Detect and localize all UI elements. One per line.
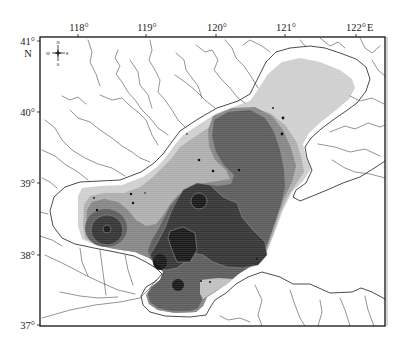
contour-label-marker bbox=[256, 258, 258, 260]
contour-label-marker bbox=[130, 193, 132, 195]
contour-label-marker bbox=[132, 202, 134, 204]
contour-label-marker bbox=[209, 281, 211, 283]
compass-north-label: N bbox=[56, 40, 59, 45]
contour-label-marker bbox=[212, 170, 215, 173]
longitude-labels: 118° 119° 120° 121° 122° E bbox=[69, 22, 373, 33]
contour-label-marker bbox=[186, 133, 188, 135]
latitude-labels: 41° N 40° 39° 38° 37° bbox=[20, 36, 35, 331]
latitude-label: 41° bbox=[20, 36, 35, 47]
contour-label-marker bbox=[198, 159, 201, 162]
latitude-label: 39° bbox=[20, 178, 35, 189]
compass-west-label: W bbox=[46, 51, 50, 56]
longitude-hemisphere-label: E bbox=[367, 22, 373, 33]
latitude-label: 40° bbox=[20, 107, 35, 118]
contour-label-marker bbox=[272, 107, 274, 109]
latitude-label: 38° bbox=[20, 250, 35, 261]
contour-label-marker bbox=[282, 117, 285, 120]
compass-east-label: E bbox=[66, 51, 69, 56]
latitude-label: 37° bbox=[20, 320, 35, 331]
contour-label-marker bbox=[281, 133, 284, 136]
longitude-label: 119° bbox=[137, 22, 157, 33]
contour-label-marker bbox=[96, 209, 98, 211]
longitude-label: 120° bbox=[207, 22, 227, 33]
bohai-sea-contour-map: N S W E 118° 119° 120° 121° 122° E 41° N… bbox=[0, 0, 404, 349]
latitude-hemisphere-label: N bbox=[24, 48, 32, 59]
longitude-label: 122° bbox=[346, 22, 366, 33]
compass-south-label: S bbox=[57, 62, 60, 67]
contour-label-marker bbox=[200, 280, 202, 282]
contour-label-marker bbox=[93, 197, 95, 199]
contour-label-marker bbox=[238, 169, 240, 171]
longitude-label: 121° bbox=[276, 22, 296, 33]
contour-label-marker bbox=[144, 192, 146, 194]
longitude-label: 118° bbox=[69, 22, 89, 33]
